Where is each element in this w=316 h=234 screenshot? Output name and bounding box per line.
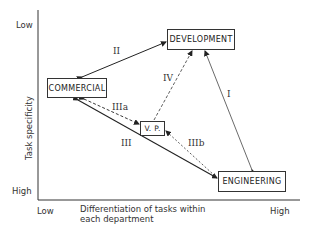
x-axis-high-label: High — [270, 206, 290, 216]
node-development: DEVELOPMENT — [167, 29, 235, 50]
node-engineering: ENGINEERING — [218, 171, 286, 192]
node-commercial: COMMERCIAL — [47, 78, 107, 98]
x-axis-title: Differentiation of tasks within each dep… — [80, 204, 206, 224]
edge-I-line — [205, 51, 252, 170]
edge-label-II: II — [113, 46, 120, 56]
x-axis-title-line2: each department — [80, 214, 206, 224]
node-vp: V. P. — [140, 121, 165, 136]
edge-label-III: III — [121, 138, 132, 148]
y-axis-high-label: High — [12, 186, 32, 196]
x-axis-low-label: Low — [37, 206, 54, 216]
edge-label-IV: IV — [163, 73, 173, 83]
x-axis-title-line1: Differentiation of tasks within — [80, 204, 206, 214]
edge-II-line — [82, 42, 166, 77]
y-axis-low-label: Low — [16, 20, 33, 30]
y-axis-title: Task specificity — [24, 96, 34, 160]
edge-label-IIIb: IIIb — [188, 138, 204, 148]
edge-label-I: I — [227, 89, 231, 99]
edge-IV-line — [154, 51, 192, 120]
edge-label-IIIa: IIIa — [112, 102, 128, 112]
diagram-canvas — [0, 0, 316, 234]
